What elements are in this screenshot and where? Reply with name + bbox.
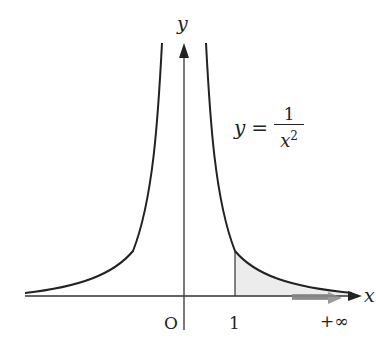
fraction-denominator: x2 (280, 125, 298, 152)
y-axis-arrow-icon (179, 43, 189, 58)
y-axis-label: y (177, 12, 188, 34)
formula-lhs: y (234, 116, 245, 140)
x-axis-label: x (364, 284, 375, 306)
tick-one-label: 1 (229, 313, 240, 333)
formula-label: y = 1 x2 (234, 104, 304, 152)
denominator-exponent: 2 (290, 129, 298, 143)
denominator-base: x (280, 130, 290, 151)
origin-label: O (164, 313, 178, 333)
infinity-label: +∞ (320, 311, 348, 331)
graph-canvas (0, 0, 376, 349)
fraction: 1 x2 (274, 104, 304, 152)
fraction-numerator: 1 (284, 104, 295, 124)
curve-left-branch (25, 43, 162, 293)
shaded-region (235, 251, 352, 296)
curve-right-branch (206, 43, 352, 293)
formula-equals: = (251, 116, 268, 140)
